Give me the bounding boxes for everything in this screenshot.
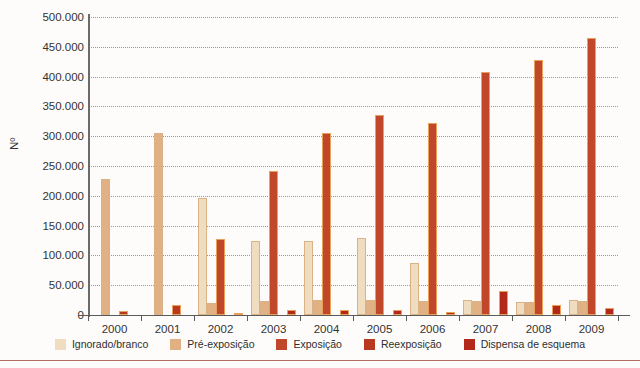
- bar: [101, 179, 110, 315]
- y-axis-tick-label: 450.000: [12, 41, 84, 53]
- y-axis-tick-label: 500.000: [12, 11, 84, 23]
- bar: [587, 38, 596, 315]
- y-axis-tick-label: 300.000: [12, 130, 84, 142]
- legend-swatch-icon: [364, 339, 375, 350]
- x-axis-tick-label: 2008: [509, 323, 569, 335]
- legend-label: Ignorado/branco: [72, 338, 148, 350]
- bar: [172, 305, 181, 315]
- bar: [313, 300, 322, 315]
- legend-label: Dispensa de esquema: [481, 338, 585, 350]
- bar: [119, 311, 128, 315]
- bar: [472, 301, 481, 315]
- x-axis-tick-mark: [353, 315, 354, 321]
- x-axis-tick-mark: [512, 315, 513, 321]
- y-axis-tick-label: 400.000: [12, 71, 84, 83]
- bar: [154, 133, 163, 315]
- x-axis-tick-mark: [618, 315, 619, 321]
- legend-swatch-icon: [464, 339, 475, 350]
- y-axis-tick-label: 0: [12, 309, 84, 321]
- x-axis-tick-mark: [406, 315, 407, 321]
- x-axis-line: [78, 315, 630, 316]
- x-axis-tick-mark: [194, 315, 195, 321]
- bar: [207, 303, 216, 315]
- bar: [516, 302, 525, 315]
- x-axis-tick-label: 2006: [403, 323, 463, 335]
- bar: [393, 310, 402, 315]
- bar: [605, 308, 614, 315]
- bar: [375, 115, 384, 315]
- bar: [410, 263, 419, 315]
- x-axis-tick-mark: [141, 315, 142, 321]
- bar: [419, 301, 428, 315]
- bar: [340, 310, 349, 315]
- x-axis-tick-label: 2004: [297, 323, 357, 335]
- y-axis-tick-label: 100.000: [12, 249, 84, 261]
- bar: [216, 239, 225, 315]
- bar: [357, 238, 366, 315]
- bar: [428, 123, 437, 316]
- legend-swatch-icon: [276, 339, 287, 350]
- legend-item[interactable]: Reexposição: [364, 338, 442, 350]
- chart-legend: Ignorado/brancoPré-exposiçãoExposiçãoRee…: [0, 338, 640, 350]
- legend-label: Exposição: [293, 338, 341, 350]
- bar: [552, 305, 561, 315]
- bar: [260, 301, 269, 315]
- y-axis-title: Nº: [8, 137, 20, 150]
- bar: [251, 241, 260, 316]
- bar: [481, 72, 490, 315]
- legend-item[interactable]: Ignorado/branco: [55, 338, 148, 350]
- legend-item[interactable]: Dispensa de esquema: [464, 338, 585, 350]
- bottom-divider: [0, 360, 640, 361]
- y-axis-tick-label: 350.000: [12, 100, 84, 112]
- bar: [366, 300, 375, 315]
- y-axis-tick-label: 50.000: [12, 279, 84, 291]
- bar: [534, 60, 543, 315]
- legend-item[interactable]: Pré-exposição: [170, 338, 254, 350]
- bar: [569, 300, 578, 315]
- legend-label: Pré-exposição: [187, 338, 254, 350]
- y-axis-tick-label: 200.000: [12, 190, 84, 202]
- legend-label: Reexposição: [381, 338, 442, 350]
- x-axis-tick-mark: [565, 315, 566, 321]
- x-axis-tick-label: 2005: [350, 323, 410, 335]
- bar: [287, 310, 296, 315]
- x-axis-tick-mark: [88, 315, 89, 321]
- bar: [499, 291, 508, 315]
- x-axis-tick-label: 2001: [138, 323, 198, 335]
- y-axis-tick-label: 150.000: [12, 220, 84, 232]
- legend-swatch-icon: [55, 339, 66, 350]
- bar: [463, 300, 472, 315]
- x-axis-tick-mark: [247, 315, 248, 321]
- x-axis-tick-mark: [459, 315, 460, 321]
- bar: [525, 302, 534, 315]
- x-axis-tick-label: 2007: [456, 323, 516, 335]
- x-axis-tick-mark: [300, 315, 301, 321]
- bar: [322, 133, 331, 315]
- legend-swatch-icon: [170, 339, 181, 350]
- bar: [578, 301, 587, 315]
- bar: [234, 313, 243, 315]
- bar: [198, 198, 207, 315]
- legend-item[interactable]: Exposição: [276, 338, 341, 350]
- bar: [304, 241, 313, 315]
- x-axis-tick-label: 2003: [244, 323, 304, 335]
- y-axis-tick-label: 250.000: [12, 160, 84, 172]
- bar: [446, 312, 455, 315]
- x-axis-tick-label: 2000: [85, 323, 145, 335]
- bars-layer: [88, 17, 618, 315]
- bar-chart: Nº 050.000100.000150.000200.000250.00030…: [0, 0, 640, 368]
- bar: [269, 171, 278, 315]
- x-axis-tick-label: 2002: [191, 323, 251, 335]
- x-axis-tick-label: 2009: [562, 323, 622, 335]
